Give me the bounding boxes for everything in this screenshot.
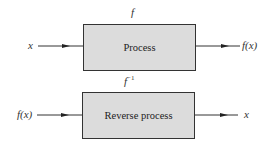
process-box: Process [83,24,196,71]
inverse-superscript: −1 [127,74,134,82]
output-fx-label: f(x) [242,39,257,51]
reverse-process-box-label: Reverse process [105,110,173,121]
input-fx-label: f(x) [17,108,32,120]
output-x-label: x [244,108,249,120]
function-label-f-inverse: f−1 [124,74,135,87]
reverse-process-box: Reverse process [82,92,195,139]
function-label-f: f [131,6,134,18]
process-box-label: Process [123,42,155,53]
input-x-label: x [28,39,33,51]
